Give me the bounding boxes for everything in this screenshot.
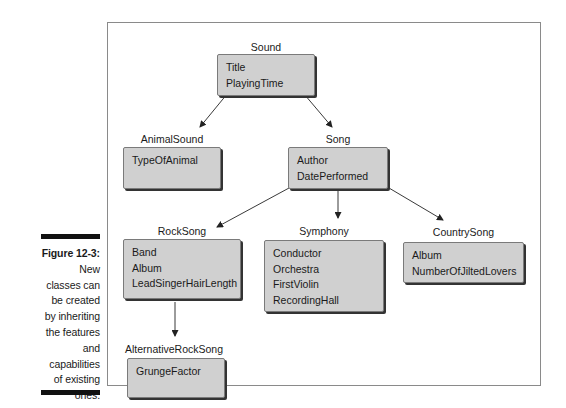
field: Title xyxy=(226,60,306,76)
field: TypeOfAnimal xyxy=(132,153,212,169)
class-name-sound: Sound xyxy=(217,41,315,53)
class-name-alternativerocksong: AlternativeRockSong xyxy=(125,343,225,355)
class-box-animalsound: TypeOfAnimal xyxy=(123,147,221,189)
class-name-countrysong: CountrySong xyxy=(403,226,524,238)
field: FirstViolin xyxy=(273,277,375,293)
field: GrungeFactor xyxy=(136,364,216,380)
field: DatePerformed xyxy=(297,169,379,185)
class-name-rocksong: RockSong xyxy=(123,225,241,237)
arrow-song-to-rocksong xyxy=(217,188,289,227)
field: RecordingHall xyxy=(273,293,375,309)
class-name-symphony: Symphony xyxy=(264,225,384,237)
arrow-song-to-countrysong xyxy=(389,188,443,220)
class-box-symphony: Conductor Orchestra FirstViolin Recordin… xyxy=(264,240,384,312)
class-box-sound: Title PlayingTime xyxy=(217,54,315,96)
field: Orchestra xyxy=(273,262,375,278)
class-box-alternativerocksong: GrungeFactor xyxy=(127,358,225,398)
field: NumberOfJiltedLovers xyxy=(412,264,515,280)
field: PlayingTime xyxy=(226,76,306,92)
field: Album xyxy=(412,248,515,264)
class-name-animalsound: AnimalSound xyxy=(123,133,221,145)
field: Band xyxy=(132,245,232,261)
field: Conductor xyxy=(273,246,375,262)
field: Album xyxy=(132,261,232,277)
class-name-song: Song xyxy=(288,133,388,145)
field: Author xyxy=(297,153,379,169)
class-box-rocksong: Band Album LeadSingerHairLength xyxy=(123,239,241,299)
class-box-countrysong: Album NumberOfJiltedLovers xyxy=(403,242,524,283)
field: LeadSingerHairLength xyxy=(132,276,232,292)
class-box-song: Author DatePerformed xyxy=(288,147,388,189)
